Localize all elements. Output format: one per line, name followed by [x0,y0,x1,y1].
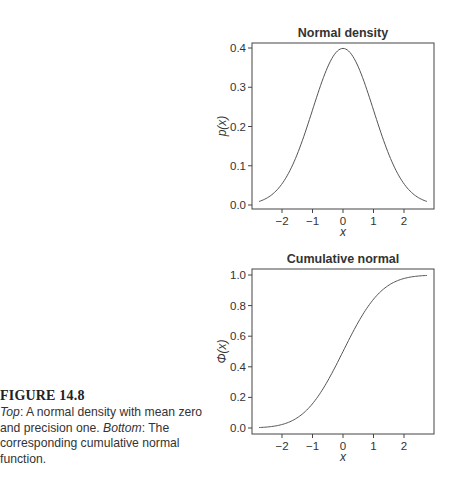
caption-bottom-label: Bottom [103,421,142,435]
cumulative-normal-chart: Cumulative normal0.00.20.40.60.81.0−2−10… [215,252,434,464]
data-curve [259,275,427,427]
normal-density-chart: Normal density0.00.10.20.30.4−2−1012xp(x… [215,26,434,239]
y-tick-label: 0.2 [230,121,246,133]
y-tick-label: 0.4 [230,361,247,373]
x-tick-label: −2 [275,440,288,452]
figure-label: FIGURE 14.8 [0,388,215,404]
x-axis-label: x [339,450,347,464]
x-tick-label: 2 [401,215,407,227]
caption-top-text: : A normal density with mean zero and pr… [0,405,202,435]
y-tick-label: 0.0 [230,199,246,211]
y-tick-label: 0.1 [230,160,246,172]
y-tick-label: 1.0 [230,269,246,281]
plot-frame [252,43,434,209]
x-tick-label: −1 [306,215,319,227]
y-axis-label: p(x) [215,116,229,138]
chart-title: Cumulative normal [287,252,400,266]
chart-title: Normal density [298,26,388,40]
figure-caption: FIGURE 14.8 Top: A normal density with m… [0,388,215,467]
y-axis-label: Φ(x) [215,339,229,363]
y-tick-label: 0.4 [230,42,247,54]
y-tick-label: 0.0 [230,422,246,434]
y-tick-label: 0.3 [230,81,246,93]
x-tick-label: −2 [275,215,288,227]
x-tick-label: 1 [370,215,376,227]
x-tick-label: 1 [370,440,376,452]
x-axis-label: x [339,225,347,239]
y-tick-label: 0.2 [230,391,246,403]
caption-top-label: Top [0,405,20,419]
y-tick-label: 0.6 [230,330,246,342]
x-tick-label: −1 [306,440,319,452]
y-tick-label: 0.8 [230,300,246,312]
x-tick-label: 2 [401,440,407,452]
figure-caption-text: Top: A normal density with mean zero and… [0,405,215,467]
data-curve [259,48,427,201]
